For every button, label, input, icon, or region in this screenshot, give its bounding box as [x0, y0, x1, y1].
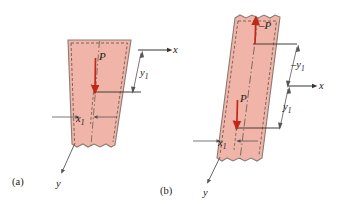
x-axis-a-label: x: [172, 44, 178, 55]
dimension-y1-a: y1: [131, 51, 148, 94]
strip-b: [217, 15, 280, 161]
panel-a: P x y y1 x1: [12, 40, 178, 189]
y-axis-a-label: y: [55, 178, 61, 189]
diagram-canvas: P x y y1 x1: [0, 0, 337, 204]
y-axis-b: y: [202, 157, 220, 198]
force-P-a-arrow: [95, 58, 96, 90]
y-axis-a: y: [55, 143, 75, 189]
dimension-y1-a-tick-bottom: [131, 87, 136, 94]
force-P-a-label: P: [98, 50, 106, 62]
dimension-y1-a-label: y1: [139, 67, 148, 81]
force-P-b-label: P: [239, 92, 247, 104]
dimension-minus-y1-b: –y1: [286, 45, 305, 88]
x-axis-b: x: [288, 80, 324, 91]
panel-b-caption: (b): [160, 185, 173, 197]
x-axis-b-label: x: [318, 80, 324, 91]
strip-b-body: [217, 15, 280, 161]
y-axis-b-label: y: [202, 187, 208, 198]
dimension-y1-b-tick-bottom: [278, 123, 283, 130]
y-axis-a-line: [62, 143, 75, 172]
force-minus-P-b-label: –P: [258, 19, 272, 31]
dimension-minus-y1-b-tick-bottom: [286, 81, 291, 88]
force-minus-P-b-arrow: [255, 20, 256, 44]
x-axis-a: x: [138, 44, 178, 55]
dimension-y1-b: y1: [278, 87, 291, 130]
dimension-minus-y1-b-label: –y1: [290, 59, 305, 73]
panel-b: –P P x y –y1: [160, 15, 324, 198]
force-P-b-arrow: [237, 100, 238, 126]
figure-root: P x y y1 x1: [0, 0, 337, 204]
y-axis-b-line: [208, 157, 220, 182]
panel-a-caption: (a): [12, 176, 24, 188]
